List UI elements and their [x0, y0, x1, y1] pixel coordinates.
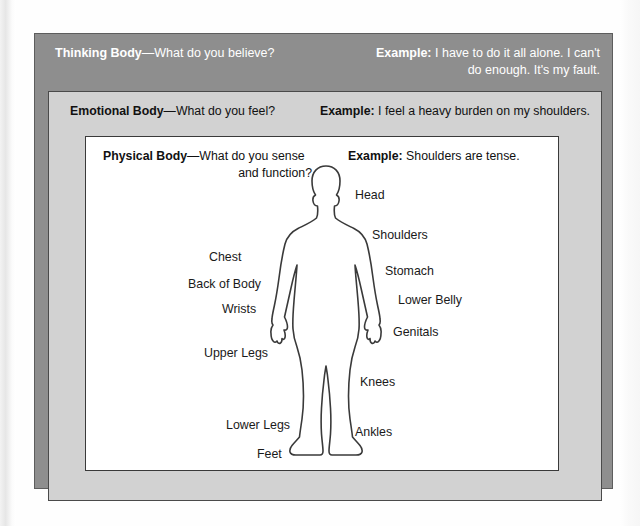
thinking-body-layer: Thinking Body—What do you believe? Examp… [34, 33, 613, 489]
physical-body-question: —What do you sense [187, 149, 305, 163]
scan-edge-right [620, 0, 640, 526]
body-label-feet: Feet [257, 447, 282, 461]
body-label-genitals: Genitals [393, 325, 438, 339]
body-label-shoulders: Shoulders [372, 228, 428, 242]
body-label-head: Head [355, 188, 385, 202]
physical-body-example: Example: Shoulders are tense. [318, 148, 547, 165]
physical-body-name: Physical Body [103, 149, 187, 163]
body-label-back-of-body: Back of Body [188, 277, 261, 291]
emotional-body-example: Example: I feel a heavy burden on my sho… [275, 103, 590, 120]
body-label-ankles: Ankles [355, 425, 392, 439]
scan-edge-left [0, 0, 16, 526]
physical-body-example-label: Example: [348, 149, 403, 163]
body-label-chest: Chest [209, 250, 241, 264]
emotional-body-layer: Emotional Body—What do you feel? Example… [48, 91, 602, 501]
human-body-outline-icon [266, 162, 386, 460]
body-label-lower-belly: Lower Belly [398, 293, 462, 307]
emotional-body-example-label: Example: [320, 104, 375, 118]
body-label-knees: Knees [360, 375, 395, 389]
body-label-lower-legs: Lower Legs [226, 418, 290, 432]
physical-body-question-line2: and function? [103, 165, 318, 182]
thinking-body-header: Thinking Body—What do you believe? Examp… [55, 45, 600, 79]
thinking-body-example: Example: I have to do it all alone. I ca… [275, 45, 600, 79]
body-figure-container [86, 137, 559, 471]
body-label-wrists: Wrists [222, 302, 256, 316]
emotional-body-title: Emotional Body—What do you feel? [70, 103, 275, 120]
thinking-body-example-line2: do enough. It's my fault. [468, 63, 600, 77]
thinking-body-question: —What do you believe? [142, 46, 275, 60]
emotional-body-header: Emotional Body—What do you feel? Example… [70, 103, 590, 120]
thinking-body-name: Thinking Body [55, 46, 142, 60]
body-label-upper-legs: Upper Legs [204, 346, 268, 360]
thinking-body-example-line1: I have to do it all alone. I can't [435, 46, 600, 60]
emotional-body-example-text: I feel a heavy burden on my shoulders. [378, 104, 590, 118]
physical-body-example-text: Shoulders are tense. [406, 149, 519, 163]
thinking-body-title: Thinking Body—What do you believe? [55, 45, 275, 62]
physical-body-title: Physical Body—What do you senseand funct… [103, 148, 318, 182]
emotional-body-question: —What do you feel? [164, 104, 275, 118]
body-label-stomach: Stomach [385, 264, 434, 278]
thinking-body-example-label: Example: [376, 46, 432, 60]
physical-body-layer: Physical Body—What do you senseand funct… [85, 136, 559, 471]
emotional-body-name: Emotional Body [70, 104, 164, 118]
physical-body-header: Physical Body—What do you senseand funct… [103, 148, 547, 182]
